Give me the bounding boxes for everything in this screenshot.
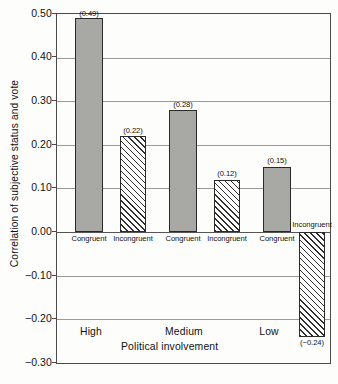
bar-low-incongruent[interactable] [299,232,325,337]
value-label-high-congruent: (0.49) [63,9,115,18]
value-label-high-incongruent: (0.22) [107,126,159,135]
series-label-low-incongruent: Incongruent [281,220,338,229]
gridline-zero [57,232,330,233]
bar-medium-congruent[interactable] [169,110,197,232]
plot-area: (0.49) Congruent (0.22) Incongruent (0.2… [56,13,331,364]
y-tick-label-5: 0.00 [8,225,52,237]
y-axis-title: Correlation of subjective status and vot… [9,56,20,292]
y-tick-label-6: −0.10 [4,269,52,281]
value-label-medium-congruent: (0.28) [157,100,209,109]
y-tick-label-4: 0.10 [8,181,52,193]
y-tick-label-2: 0.30 [8,94,52,106]
group-label-high: High [61,326,121,337]
value-label-medium-incongruent: (0.12) [201,169,253,178]
series-label-low-congruent: Congruent [249,234,305,243]
group-label-medium: Medium [153,326,215,337]
gridline-neg0.10 [57,276,330,277]
bar-chart-figure: Correlation of subjective status and vot… [0,0,338,384]
y-tick-label-3: 0.20 [8,138,52,150]
gridline-neg0.20 [57,319,330,320]
y-tick-label-7: −0.20 [4,312,52,324]
value-label-low-incongruent: (−0.24) [286,338,338,347]
bar-high-congruent[interactable] [75,18,103,232]
y-tick-label-1: 0.40 [8,50,52,62]
y-tick-label-0: 0.50 [8,7,52,19]
bar-high-incongruent[interactable] [120,136,146,232]
bar-medium-incongruent[interactable] [214,180,240,232]
value-label-low-congruent: (0.15) [251,156,303,165]
y-tick-label-8: −0.30 [4,356,52,368]
group-label-low: Low [247,326,291,337]
x-axis-title: Political involvement [121,341,218,352]
